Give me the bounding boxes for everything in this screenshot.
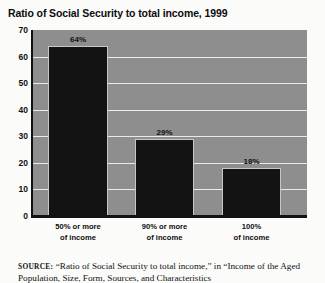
bar-value-label-2: 18% — [243, 157, 259, 166]
x-tick-label-0-line2: of income — [55, 233, 101, 244]
x-tick-label-0: 50% or more of income — [55, 222, 101, 243]
y-tick-60: 60 — [4, 52, 28, 62]
chart-figure: Ratio of Social Security to total income… — [0, 0, 325, 283]
bar-50-percent-or-more — [48, 46, 108, 216]
bar-90-percent-or-more — [135, 139, 194, 216]
y-axis: 0 10 20 30 40 50 60 70 — [0, 30, 28, 216]
x-axis-line — [33, 215, 307, 218]
source-label: SOURCE: — [18, 262, 53, 271]
y-axis-line — [31, 30, 33, 218]
x-tick-label-1: 90% or more of income — [142, 222, 188, 243]
x-tick-label-2: 100% of income — [234, 222, 270, 243]
bar-value-label-0: 64% — [70, 35, 86, 44]
x-tick-label-1-line2: of income — [142, 233, 188, 244]
y-tick-0: 0 — [4, 211, 28, 221]
x-tick-label-0-line1: 50% or more — [55, 222, 101, 233]
x-tick-label-2-line2: of income — [234, 233, 270, 244]
x-tick-label-1-line1: 90% or more — [142, 222, 188, 233]
y-tick-20: 20 — [4, 158, 28, 168]
plot-area: 64% 29% 18% — [33, 30, 307, 216]
y-tick-10: 10 — [4, 184, 28, 194]
source-line1: “Ratio of Social Security to total incom… — [56, 261, 279, 271]
bar-value-label-1: 29% — [156, 128, 172, 137]
x-tick-label-2-line1: 100% — [234, 222, 270, 233]
y-tick-30: 30 — [4, 131, 28, 141]
y-tick-70: 70 — [4, 25, 28, 35]
y-tick-50: 50 — [4, 78, 28, 88]
y-tick-40: 40 — [4, 105, 28, 115]
chart-title: Ratio of Social Security to total income… — [8, 7, 308, 19]
source-note: SOURCE: “Ratio of Social Security to tot… — [18, 261, 314, 283]
bar-100-percent — [222, 168, 281, 216]
